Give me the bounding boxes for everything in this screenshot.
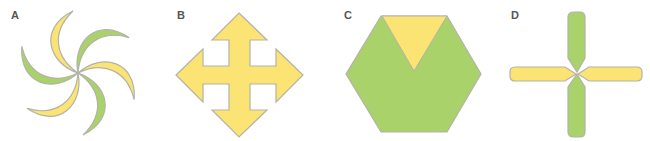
hexagon-figure [346,16,481,132]
four-way-arrow-figure [176,13,303,137]
pinwheel-figure [11,11,146,135]
figures-canvas [0,0,650,141]
bar-cross-figure [510,12,642,137]
